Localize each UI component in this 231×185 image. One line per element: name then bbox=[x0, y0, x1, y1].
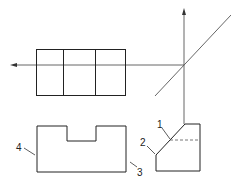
leader-3 bbox=[130, 162, 137, 167]
label-4: 4 bbox=[16, 142, 22, 153]
leader-1 bbox=[162, 128, 170, 139]
left-arrow-icon bbox=[10, 63, 17, 67]
front-view bbox=[37, 126, 126, 172]
up-arrow-icon bbox=[182, 8, 186, 15]
leader-4 bbox=[24, 148, 35, 155]
label-2: 2 bbox=[140, 137, 146, 148]
projection-diagram: 1 2 3 4 bbox=[0, 0, 231, 185]
top-view bbox=[37, 50, 126, 96]
label-3: 3 bbox=[137, 167, 143, 178]
leader-2 bbox=[147, 146, 155, 154]
label-1: 1 bbox=[157, 119, 163, 130]
miter-line bbox=[155, 15, 231, 96]
side-view bbox=[156, 124, 200, 171]
